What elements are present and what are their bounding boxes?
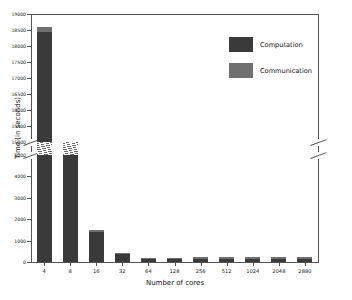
x-axis-title: Number of cores [31,279,319,287]
bar-axis-break-hatch [37,142,52,155]
bar-segment-communication [193,257,208,259]
bar [37,14,52,262]
right-spine [318,14,319,262]
legend-item: Communication [229,62,312,79]
x-tick [70,262,71,266]
x-tick-label: 16 [93,268,100,274]
bar [63,14,78,262]
y-tick-label: 17000 [0,76,26,81]
y-tick-label: 2000 [0,217,26,222]
y-tick [27,176,31,177]
x-tick-label: 64 [145,268,152,274]
y-tick-label: 19000 [0,12,26,17]
x-tick-label: 4 [42,268,45,274]
legend-label: Computation [260,41,303,49]
x-tick-label: 512 [222,268,232,274]
y-tick-label: 18500 [0,28,26,33]
x-tick-label: 2048 [272,268,285,274]
bar-segment-communication [297,257,312,259]
y-tick [27,94,31,95]
x-tick [148,262,149,266]
bar [141,14,156,262]
x-tick [175,262,176,266]
x-tick-label: 8 [68,268,71,274]
y-axis-title: Time (in seconds) [14,58,22,198]
x-tick [96,262,97,266]
x-tick [253,262,254,266]
y-tick [27,219,31,220]
y-tick [27,14,31,15]
x-tick-label: 128 [170,268,180,274]
y-tick [27,46,31,47]
y-tick-label: 0 [0,260,26,265]
y-tick-label: 15000 [0,140,26,145]
legend-swatch [229,63,253,78]
y-axis-spine [31,14,32,262]
y-tick-label: 17500 [0,60,26,65]
x-tick [279,262,280,266]
bar-chart: 0100020003000400050001500015500160001650… [0,0,352,300]
y-tick-label: 3000 [0,195,26,200]
x-tick [227,262,228,266]
y-tick [27,30,31,31]
y-tick-label: 18000 [0,44,26,49]
bar-segment-communication [245,257,260,259]
x-tick [122,262,123,266]
bar-segment-computation [89,231,104,262]
x-tick-label: 256 [196,268,206,274]
bar-segment-communication [219,257,234,259]
bar-segment-communication [141,258,156,259]
bar-segment-communication [89,230,104,231]
bar-segment-communication [271,257,286,259]
y-tick-label: 1000 [0,238,26,243]
x-tick-label: 1024 [246,268,259,274]
legend-item: Computation [229,36,312,53]
x-tick-label: 2880 [298,268,311,274]
y-tick-label: 16000 [0,108,26,113]
y-tick-label: 16500 [0,92,26,97]
bar [193,14,208,262]
y-tick [27,126,31,127]
y-tick [27,262,31,263]
y-tick [27,78,31,79]
x-tick [44,262,45,266]
x-tick-label: 32 [119,268,126,274]
legend-swatch [229,37,253,52]
y-tick [27,62,31,63]
bar [115,14,130,262]
chart-legend: ComputationCommunication [229,36,312,88]
y-tick [27,241,31,242]
y-tick-label: 15500 [0,124,26,129]
y-tick-label: 4000 [0,174,26,179]
x-tick [201,262,202,266]
bar-segment-communication [115,253,130,254]
y-tick-label: 5000 [0,153,26,158]
bar-segment-computation [115,253,130,262]
bar [167,14,182,262]
x-tick [305,262,306,266]
bar-segment-communication [37,27,52,32]
legend-label: Communication [260,67,312,75]
y-tick [27,110,31,111]
y-tick [27,198,31,199]
bar-segment-communication [167,258,182,259]
bar [89,14,104,262]
bar-segment-computation [63,142,78,262]
bar-axis-break-hatch [63,142,78,155]
